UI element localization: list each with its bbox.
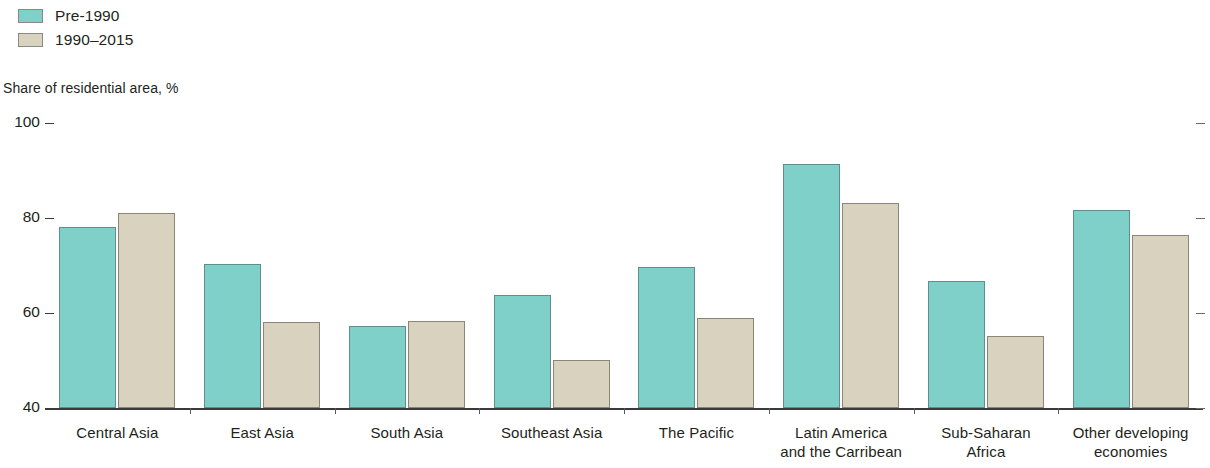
y-axis-tick-mark: [45, 123, 54, 124]
x-axis-category-line: Other developing: [1058, 423, 1203, 442]
y-axis-tick-label: 100: [0, 113, 40, 131]
bar: [494, 295, 551, 408]
x-axis-category-line: East Asia: [190, 423, 335, 442]
y-axis-tick-label: 60: [0, 303, 40, 321]
bar: [349, 326, 406, 408]
x-axis-category-label: The Pacific: [624, 423, 769, 442]
x-axis-tick-mark: [624, 408, 625, 414]
x-axis-category-line: South Asia: [335, 423, 480, 442]
bar: [1073, 210, 1130, 408]
y-axis-tick-mark-right: [1196, 218, 1205, 219]
x-axis-category-label: East Asia: [190, 423, 335, 442]
bar: [263, 322, 320, 408]
bar: [638, 267, 695, 408]
x-axis-category-label: Sub-SaharanAfrica: [914, 423, 1059, 461]
x-axis-tick-mark: [190, 408, 191, 414]
bar: [553, 360, 610, 408]
x-axis-category-line: Central Asia: [45, 423, 190, 442]
chart-plot-area: 406080100Central AsiaEast AsiaSouth Asia…: [0, 0, 1210, 468]
bar: [204, 264, 261, 408]
y-axis-tick-label: 40: [0, 398, 40, 416]
y-axis-tick-mark: [45, 218, 54, 219]
y-axis-tick-mark-right: [1196, 313, 1205, 314]
x-axis-tick-mark: [769, 408, 770, 414]
bar: [697, 318, 754, 408]
x-axis-category-line: and the Carribean: [769, 442, 914, 461]
bar: [408, 321, 465, 408]
x-axis-category-line: Africa: [914, 442, 1059, 461]
bar: [118, 213, 175, 408]
bar: [928, 281, 985, 408]
y-axis-tick-mark-right: [1196, 408, 1205, 409]
x-axis-category-line: Latin America: [769, 423, 914, 442]
x-axis-category-label: South Asia: [335, 423, 480, 442]
x-axis-category-label: Latin Americaand the Carribean: [769, 423, 914, 461]
y-axis-tick-label: 80: [0, 208, 40, 226]
bar: [842, 203, 899, 408]
y-axis-tick-mark: [45, 313, 54, 314]
bar: [1132, 235, 1189, 408]
x-axis-category-label: Central Asia: [45, 423, 190, 442]
x-axis-tick-mark: [479, 408, 480, 414]
x-axis-tick-mark: [335, 408, 336, 414]
bar: [783, 164, 840, 408]
x-axis-category-label: Southeast Asia: [479, 423, 624, 442]
x-axis-category-line: Southeast Asia: [479, 423, 624, 442]
bar: [59, 227, 116, 408]
x-axis-category-line: The Pacific: [624, 423, 769, 442]
x-axis-category-line: economies: [1058, 442, 1203, 461]
x-axis-tick-mark: [914, 408, 915, 414]
bar: [987, 336, 1044, 408]
y-axis-tick-mark: [45, 408, 54, 409]
y-axis-tick-mark-right: [1196, 123, 1205, 124]
x-axis-tick-mark: [1058, 408, 1059, 414]
x-axis-category-line: Sub-Saharan: [914, 423, 1059, 442]
x-axis-category-label: Other developingeconomies: [1058, 423, 1203, 461]
